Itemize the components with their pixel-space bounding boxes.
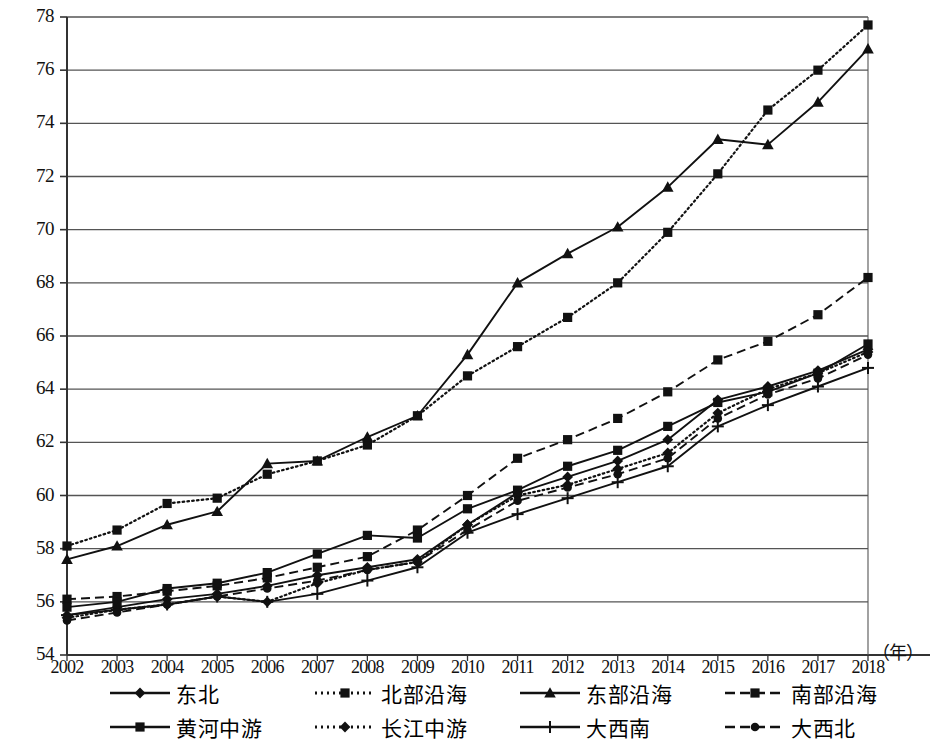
x-tick-label: 2012 (540, 657, 596, 678)
data-point (613, 446, 622, 455)
x-tick-label: 2008 (339, 657, 395, 678)
data-point (563, 313, 572, 322)
data-point (562, 492, 574, 504)
series-3 (62, 273, 872, 604)
data-point (313, 576, 322, 585)
data-point (362, 431, 374, 441)
data-point (613, 470, 622, 479)
legend-label: 东北 (172, 678, 219, 708)
data-point (513, 454, 522, 463)
data-point (263, 568, 272, 577)
data-point (862, 43, 874, 53)
data-point (263, 584, 272, 593)
x-tick-label: 2010 (440, 657, 496, 678)
chart-root: 54565860626466687072747678 2002200320042… (0, 0, 930, 751)
legend-row-2: 黄河中游长江中游大西南大西北 (0, 710, 930, 744)
legend-label: 大西北 (787, 712, 856, 742)
x-tick-label: 2017 (790, 657, 846, 678)
data-point (361, 575, 373, 587)
data-point (413, 533, 422, 542)
series-2 (61, 43, 874, 564)
x-tick-label: 2004 (139, 657, 195, 678)
legend-item-东北[interactable]: 东北 (108, 676, 313, 710)
data-point (763, 337, 772, 346)
line-chart-canvas (0, 0, 930, 751)
data-point (512, 508, 524, 520)
legend-item-东部沿海[interactable]: 东部沿海 (518, 676, 723, 710)
y-tick-label: 78 (14, 5, 54, 27)
gridlines (67, 17, 868, 602)
triangle-marker-icon (518, 683, 582, 703)
diamond-marker-icon (313, 717, 377, 737)
legend-item-长江中游[interactable]: 长江中游 (313, 710, 518, 744)
data-point (213, 494, 222, 503)
square-marker-icon (313, 683, 377, 703)
data-point (613, 414, 622, 423)
data-point (712, 133, 724, 143)
data-point (313, 549, 322, 558)
data-point (63, 616, 72, 625)
y-tick-label: 70 (14, 218, 54, 240)
y-tick-label: 64 (14, 377, 54, 399)
data-point (163, 499, 172, 508)
axes (60, 17, 930, 661)
data-point (563, 483, 572, 492)
series-5 (62, 347, 874, 624)
x-tick-label: 2013 (590, 657, 646, 678)
data-point (663, 387, 672, 396)
x-tick-label: 2006 (239, 657, 295, 678)
legend-label: 大西南 (582, 712, 651, 742)
data-point (613, 278, 622, 287)
chart-legend: 东北北部沿海东部沿海南部沿海 黄河中游长江中游大西南大西北 (0, 676, 930, 751)
x-axis-unit-label: （年） (872, 638, 923, 664)
data-point (513, 497, 522, 506)
data-point (762, 399, 774, 411)
data-point (363, 552, 372, 561)
x-tick-label: 2003 (89, 657, 145, 678)
data-point (763, 105, 772, 114)
data-point (62, 541, 71, 550)
y-tick-label: 68 (14, 271, 54, 293)
data-point (261, 596, 273, 608)
data-point (513, 342, 522, 351)
data-point (112, 525, 121, 534)
data-point (663, 228, 672, 237)
data-point (111, 540, 123, 550)
diamond-marker-icon (108, 683, 172, 703)
data-point (311, 588, 323, 600)
y-tick-label: 56 (14, 590, 54, 612)
y-tick-label: 76 (14, 58, 54, 80)
data-point (163, 600, 172, 609)
data-point (113, 608, 122, 617)
data-point (663, 454, 672, 463)
x-tick-label: 2015 (690, 657, 746, 678)
legend-item-南部沿海[interactable]: 南部沿海 (723, 676, 928, 710)
data-point (713, 355, 722, 364)
data-point (813, 66, 822, 75)
data-point (764, 390, 773, 399)
y-tick-label: 72 (14, 165, 54, 187)
circle-marker-icon (723, 717, 787, 737)
data-point (714, 414, 723, 423)
data-point (863, 273, 872, 282)
data-point (263, 470, 272, 479)
data-point (563, 462, 572, 471)
data-point (413, 525, 422, 534)
data-point (562, 248, 574, 258)
x-tick-label: 2009 (389, 657, 445, 678)
legend-item-黄河中游[interactable]: 黄河中游 (108, 710, 313, 744)
data-point (814, 374, 823, 383)
data-point (862, 362, 874, 374)
x-tick-label: 2016 (740, 657, 796, 678)
legend-item-大西北[interactable]: 大西北 (723, 710, 928, 744)
data-point (363, 531, 372, 540)
legend-item-北部沿海[interactable]: 北部沿海 (313, 676, 518, 710)
data-point (463, 526, 472, 535)
data-point (213, 592, 222, 601)
series-0 (62, 344, 874, 621)
data-point (463, 491, 472, 500)
y-tick-label: 58 (14, 537, 54, 559)
legend-item-大西南[interactable]: 大西南 (518, 710, 723, 744)
data-point (413, 558, 422, 567)
data-point (863, 20, 872, 29)
